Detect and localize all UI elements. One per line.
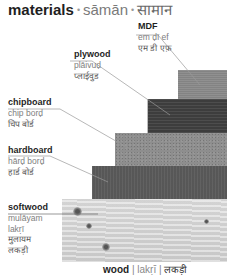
plywood-transliteration: plāivuḍ (74, 60, 111, 71)
chipboard-hindi: चिप बोर्ड (8, 119, 52, 130)
caption-separator: | (159, 264, 162, 275)
softwood-hindi-1: मुलायम (8, 234, 48, 245)
chipboard-english: chipboard (8, 97, 52, 108)
chipboard-transliteration: chip borḍ (8, 108, 52, 119)
caption-separator: | (132, 264, 135, 275)
plywood-english: plywood (74, 49, 111, 60)
mdf-hindi: एम डी एफ़ (138, 43, 172, 54)
plywood-hindi: प्लाईवुड (74, 71, 111, 82)
label-hardboard: hardboard hārḍ borḍ हार्ड बोर्ड (8, 145, 53, 177)
caption-english: wood (103, 264, 129, 275)
hardboard-hindi: हार्ड बोर्ड (8, 167, 53, 178)
label-plywood: plywood plāivuḍ प्लाईवुड (74, 49, 111, 81)
mdf-transliteration: em ḍī ef (138, 32, 172, 43)
mdf-english: MDF (138, 21, 172, 32)
caption-transliteration: lakṛī (137, 264, 156, 275)
caption-wood: wood | lakṛī | लकड़ी (103, 264, 187, 276)
caption-hindi: लकड़ी (164, 264, 187, 275)
label-softwood: softwood mulāyam lakṛī मुलायम लकड़ी (8, 202, 48, 255)
hardboard-english: hardboard (8, 145, 53, 156)
hardboard-transliteration: hārḍ borḍ (8, 156, 53, 167)
label-chipboard: chipboard chip borḍ चिप बोर्ड (8, 97, 52, 129)
label-mdf: MDF em ḍī ef एम डी एफ़ (138, 21, 172, 53)
softwood-transliteration-2: lakṛī (8, 224, 48, 235)
softwood-transliteration-1: mulāyam (8, 213, 48, 224)
softwood-english: softwood (8, 202, 48, 213)
softwood-hindi-2: लकड़ी (8, 245, 48, 256)
